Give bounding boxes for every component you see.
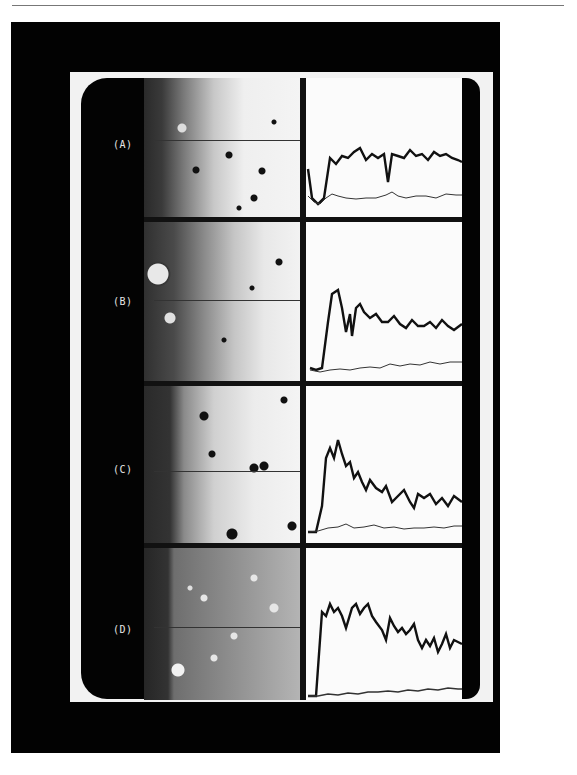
lunar-photo-a	[144, 78, 300, 217]
panel-label-b: (B)	[113, 296, 133, 307]
scan-line-a	[154, 140, 300, 141]
profile-plot-c	[306, 386, 462, 543]
scan-line-d	[154, 627, 300, 628]
panel-row-a	[144, 78, 462, 217]
panel-label-c: (C)	[113, 464, 133, 475]
right-film-margin	[462, 78, 480, 699]
panel-label-a: (A)	[113, 139, 133, 150]
lunar-photo-c	[144, 386, 300, 543]
panel-label-d: (D)	[113, 624, 133, 635]
panel-row-b	[144, 222, 462, 381]
profile-plot-a	[306, 78, 462, 217]
profile-trace-b	[306, 222, 462, 381]
page-header-rule	[12, 5, 564, 6]
profile-plot-b	[306, 222, 462, 381]
profile-trace-d	[306, 548, 462, 700]
panel-row-d	[144, 548, 462, 700]
panel-row-c	[144, 386, 462, 543]
profile-trace-a	[306, 78, 462, 217]
scan-line-b	[154, 300, 300, 301]
scan-line-c	[154, 471, 300, 472]
profile-plot-d	[306, 548, 462, 700]
profile-trace-c	[306, 386, 462, 543]
left-film-margin	[81, 78, 145, 699]
lunar-photo-b	[144, 222, 300, 381]
lunar-photo-d	[144, 548, 300, 700]
